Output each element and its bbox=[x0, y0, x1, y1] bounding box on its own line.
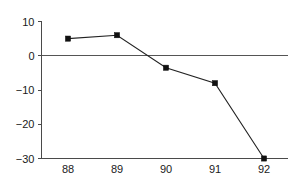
data-point-92 bbox=[261, 156, 266, 161]
y-tick-label-4: −30 bbox=[16, 153, 35, 165]
x-tick-label-1: 89 bbox=[111, 163, 123, 175]
x-tick-label-0: 88 bbox=[62, 163, 74, 175]
line-chart: 100−10−20−30 8889909192 bbox=[0, 0, 298, 188]
x-tick-label-2: 90 bbox=[160, 163, 172, 175]
y-tick-label-1: 0 bbox=[28, 50, 34, 62]
chart-background bbox=[0, 0, 298, 188]
y-tick-label-0: 10 bbox=[22, 16, 34, 28]
data-point-91 bbox=[212, 81, 217, 86]
x-tick-label-3: 91 bbox=[209, 163, 221, 175]
x-tick-label-4: 92 bbox=[258, 163, 270, 175]
y-tick-label-2: −10 bbox=[16, 84, 35, 96]
data-point-90 bbox=[163, 65, 168, 70]
data-point-88 bbox=[65, 36, 70, 41]
data-point-89 bbox=[114, 33, 119, 38]
chart-container: 100−10−20−30 8889909192 bbox=[0, 0, 298, 188]
y-tick-label-3: −20 bbox=[16, 118, 35, 130]
